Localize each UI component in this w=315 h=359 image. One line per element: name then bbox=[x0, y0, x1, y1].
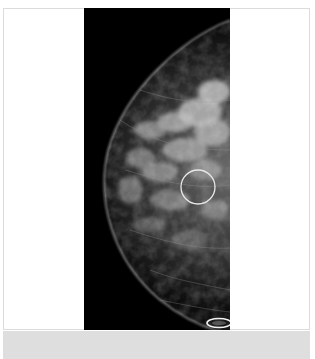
bottom-strip bbox=[3, 331, 310, 359]
mammogram-image bbox=[84, 8, 230, 330]
